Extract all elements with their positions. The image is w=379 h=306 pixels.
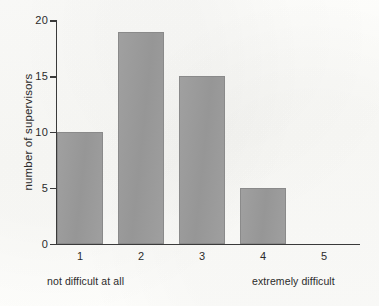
x-tick-label-2: 2	[121, 250, 161, 262]
bar-category-2	[118, 32, 164, 244]
x-tick-label-1: 1	[60, 250, 100, 262]
scale-anchor-right-label: extremely difficult	[252, 275, 335, 287]
x-tick-label-5: 5	[304, 250, 344, 262]
scale-anchor-left-label: not difficult at all	[47, 275, 124, 287]
x-tick-label-3: 3	[182, 250, 222, 262]
bar-chart-figure: number of supervisors 20 15 10 5 0 1 2 3…	[0, 0, 379, 306]
bar-category-1	[57, 132, 103, 244]
bar-category-3	[179, 76, 225, 243]
x-tick-label-4: 4	[243, 250, 283, 262]
bar-category-4	[240, 188, 286, 244]
